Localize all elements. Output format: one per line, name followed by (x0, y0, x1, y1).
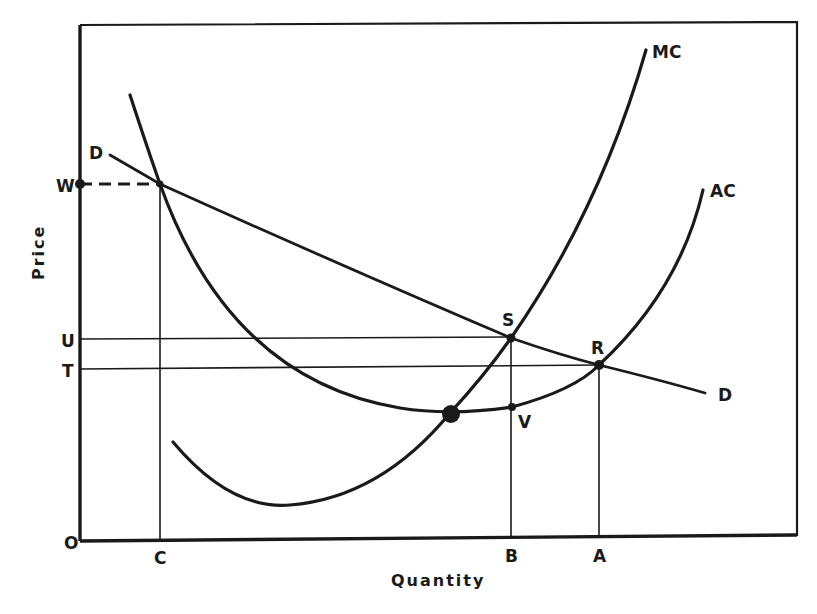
s-point (507, 334, 516, 343)
ac-minimum-point (442, 405, 460, 423)
origin-label: O (64, 533, 78, 553)
demand-label-right: D (718, 385, 732, 405)
c-label: C (154, 548, 166, 568)
r-label: R (591, 338, 604, 358)
cost-demand-diagram: MC AC D D S R V W U T O C B A Quantity P… (0, 0, 817, 614)
x-axis-title: Quantity (391, 571, 485, 590)
v-point (508, 403, 516, 411)
marginal-cost-curve (173, 50, 646, 505)
average-cost-curve (130, 95, 703, 412)
t-label: T (62, 361, 74, 381)
t-line (80, 365, 599, 369)
w-label: W (56, 176, 75, 196)
y-axis-title: Price (29, 225, 48, 280)
v-label: V (518, 412, 532, 432)
s-label: S (502, 310, 514, 330)
ac-demand-intersection-point (157, 181, 164, 188)
u-line (80, 337, 511, 339)
w-point (75, 179, 85, 189)
mc-label: MC (652, 42, 681, 62)
ac-label: AC (710, 181, 736, 201)
demand-label-left: D (89, 143, 103, 163)
u-label: U (61, 331, 75, 351)
quantity-axis (80, 535, 797, 541)
r-point (594, 360, 604, 370)
b-label: B (505, 546, 518, 566)
a-label: A (593, 546, 607, 566)
demand-curve (110, 155, 705, 393)
